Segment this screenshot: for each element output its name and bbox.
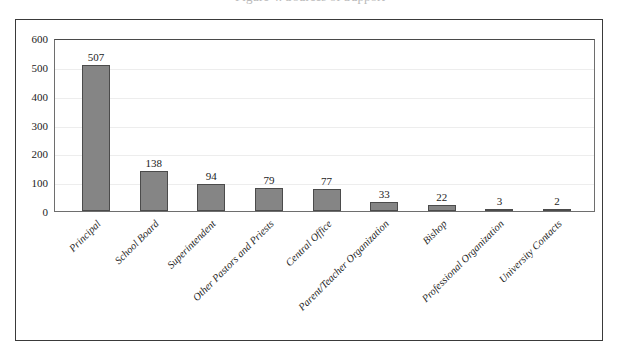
plot-area: 507138947977332232 <box>54 39 595 212</box>
y-axis-tick-label: 500 <box>16 63 48 73</box>
x-axis-label-slot: School Board <box>124 214 182 338</box>
x-axis-label-slot: Other Pastors and Priests <box>239 214 297 338</box>
bar-value-label: 2 <box>528 195 586 207</box>
bar-value-label: 507 <box>67 51 125 63</box>
bar-group: 507 <box>67 40 125 211</box>
x-axis: PrincipalSchool BoardSuperintendentOther… <box>54 214 595 338</box>
bar[interactable] <box>82 65 110 211</box>
x-axis-tick-label: Bishop <box>420 218 448 246</box>
bar[interactable] <box>197 184 225 211</box>
bar[interactable] <box>255 188 283 211</box>
bar-group: 3 <box>470 40 528 211</box>
bar-value-label: 77 <box>298 175 356 187</box>
bar[interactable] <box>428 205 456 211</box>
y-axis: 6005004003002001000 <box>16 32 48 205</box>
bar[interactable] <box>370 202 398 212</box>
y-axis-tick-label: 100 <box>16 178 48 188</box>
x-axis-label-slot: University Contacts <box>527 214 585 338</box>
bar-group: 22 <box>413 40 471 211</box>
y-axis-tick-label: 600 <box>16 34 48 44</box>
figure-title-text: Figure 4. Sources of Support <box>0 0 620 5</box>
bar-value-label: 33 <box>355 188 413 200</box>
bar-group: 138 <box>125 40 183 211</box>
bar-group: 79 <box>240 40 298 211</box>
bar-group: 33 <box>355 40 413 211</box>
bar-value-label: 138 <box>125 157 183 169</box>
x-axis-label-slot: Parent/Teacher Organization <box>354 214 412 338</box>
y-axis-tick-label: 200 <box>16 149 48 159</box>
figure-frame: 6005004003002001000 507138947977332232 P… <box>15 19 603 341</box>
y-axis-tick-label: 400 <box>16 92 48 102</box>
y-axis-tick-label: 300 <box>16 121 48 131</box>
bar-value-label: 3 <box>470 195 528 207</box>
bar[interactable] <box>313 189 341 211</box>
bar-group: 77 <box>298 40 356 211</box>
bar-value-label: 94 <box>182 170 240 182</box>
bar-group: 2 <box>528 40 586 211</box>
bar[interactable] <box>543 209 571 212</box>
bar-value-label: 22 <box>413 191 471 203</box>
bars-layer: 507138947977332232 <box>55 40 594 211</box>
bar[interactable] <box>140 171 168 211</box>
bar[interactable] <box>485 209 513 212</box>
y-axis-tick-label: 0 <box>16 207 48 217</box>
bar-group: 94 <box>182 40 240 211</box>
x-axis-tick-label: Principal <box>67 218 103 254</box>
bar-value-label: 79 <box>240 174 298 186</box>
figure-title-sliver: Figure 4. Sources of Support <box>0 0 620 6</box>
x-axis-label-slot: Principal <box>66 214 124 338</box>
bar-chart: 6005004003002001000 507138947977332232 P… <box>16 20 602 340</box>
